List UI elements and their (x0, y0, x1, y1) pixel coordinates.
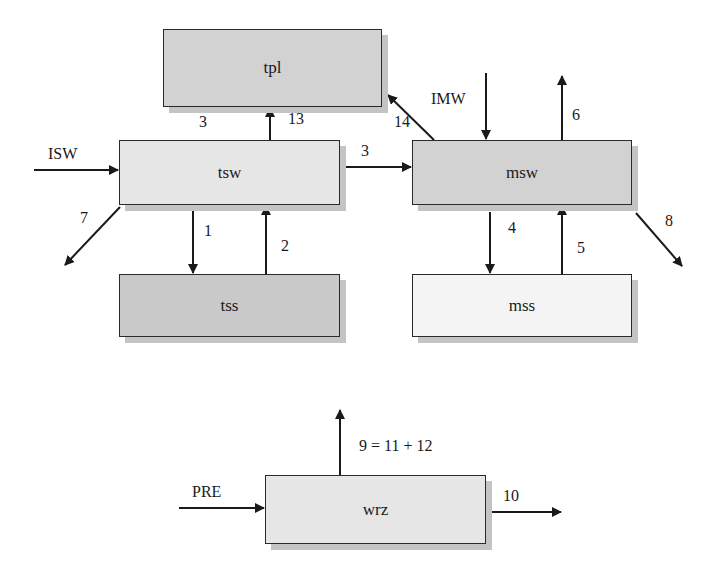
node-tpl-label: tpl (264, 58, 282, 78)
label-imw: IMW (431, 90, 466, 108)
label-13: 13 (288, 110, 304, 128)
node-msw-label: msw (506, 163, 538, 183)
arrow-8 (636, 213, 682, 266)
node-tpl: tpl (163, 29, 382, 107)
node-wrz: wrz (265, 475, 486, 544)
label-4: 4 (508, 219, 516, 237)
label-2: 2 (281, 237, 289, 255)
node-mss-label: mss (509, 296, 535, 316)
node-tss: tss (119, 274, 340, 337)
label-9: 9 = 11 + 12 (359, 437, 432, 455)
label-8: 8 (665, 212, 673, 230)
label-3-right: 3 (361, 142, 369, 160)
label-1: 1 (204, 222, 212, 240)
node-tss-label: tss (221, 296, 239, 316)
label-14: 14 (394, 113, 410, 131)
node-mss: mss (412, 274, 632, 337)
arrow-7 (65, 207, 120, 265)
label-5: 5 (577, 239, 585, 257)
node-msw: msw (412, 140, 632, 205)
label-3-top: 3 (199, 113, 207, 131)
node-tsw: tsw (119, 140, 340, 205)
label-pre: PRE (192, 483, 221, 501)
label-6: 6 (572, 106, 580, 124)
node-wrz-label: wrz (363, 500, 388, 520)
label-10: 10 (503, 487, 519, 505)
label-isw: ISW (48, 145, 77, 163)
node-tsw-label: tsw (218, 163, 242, 183)
label-7: 7 (80, 209, 88, 227)
